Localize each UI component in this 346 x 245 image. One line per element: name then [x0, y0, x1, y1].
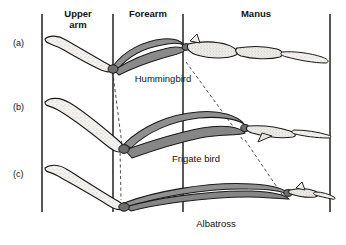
digit-phalanx-2-a	[281, 52, 328, 63]
column-header-manus: Manus	[216, 9, 296, 20]
elbow-joint-b	[119, 145, 129, 154]
species-label-hummingbird: Hummingbird	[113, 73, 213, 84]
elbow-joint-a	[108, 65, 118, 73]
digit-phalanx-1-a	[236, 47, 283, 59]
wing-skeleton-frigate-bird	[45, 98, 331, 158]
wing-skeleton-albatross	[45, 165, 335, 211]
species-label-frigate-bird: Frigate bird	[146, 153, 246, 164]
carpometacarpus-a	[187, 42, 237, 58]
humerus-bone-c	[45, 165, 123, 209]
row-label-b: (b)	[13, 102, 24, 112]
ulna-bone-c	[125, 191, 289, 211]
elbow-joint-c	[119, 203, 129, 211]
alula-a	[190, 34, 200, 43]
bird-wing-comparison-figure: Upper arm Forearm Manus (a) (b) (c) Humm…	[0, 0, 346, 245]
dashed-elbow-b-to-c	[120, 147, 121, 200]
digit-phalanx-1-b	[292, 130, 331, 138]
column-header-upper-arm: Upper arm	[48, 9, 108, 30]
digit-phalanx-1-c	[314, 192, 335, 199]
row-label-c: (c)	[13, 169, 24, 179]
humerus-bone-a	[45, 36, 112, 72]
species-label-albatross: Albatross	[166, 218, 266, 229]
row-label-a: (a)	[13, 38, 24, 48]
column-header-forearm: Forearm	[118, 9, 178, 20]
wing-skeleton-drawing	[0, 0, 346, 245]
wing-skeleton-hummingbird	[45, 34, 328, 75]
humerus-bone-b	[45, 98, 123, 152]
